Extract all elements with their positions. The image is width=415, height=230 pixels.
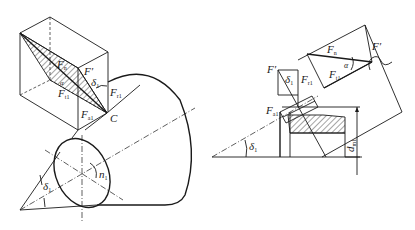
label-delta1-lower: δ1	[249, 140, 257, 153]
tooth-profile-symbol	[369, 57, 392, 70]
label-F-prime-top: F′	[371, 40, 382, 52]
label-F-prime-left-r: F′	[266, 63, 277, 75]
left-isometric-view: F′ δ1 Fr1 Fa1 Ft1 Fn α C n1 δ1	[20, 17, 195, 222]
label-Ft1-right: Ft1	[328, 68, 340, 81]
label-delta1-left: δ1	[91, 76, 99, 89]
label-Fn-right: Fn	[326, 43, 337, 56]
label-dm1: dm1	[344, 139, 357, 152]
label-delta1-bottom: δ1	[43, 180, 51, 193]
bevel-gear-force-diagram: F′ δ1 Fr1 Fa1 Ft1 Fn α C n1 δ1	[0, 0, 415, 230]
label-Fa1-right: Fa1	[265, 104, 278, 117]
label-C: C	[110, 112, 118, 124]
label-Fr1-left: Fr1	[109, 86, 122, 99]
label-Fr1-right: Fr1	[300, 73, 313, 86]
force-prism	[20, 17, 108, 130]
bevel-gear-cone	[20, 74, 195, 222]
delta1-angle-arc	[245, 140, 247, 157]
label-alpha-left: α	[60, 79, 64, 87]
label-Fa1-left: Fa1	[80, 108, 93, 121]
label-delta1-upper: δ1	[285, 73, 293, 86]
right-section-view: F′ Fn α Ft1 F′ δ1 Fr1 Fa1 δ1 dm1	[212, 25, 402, 175]
n1-rotation-arc	[90, 163, 96, 178]
label-n1: n1	[99, 168, 108, 181]
label-alpha-right: α	[344, 61, 349, 70]
force-construction	[278, 25, 402, 175]
